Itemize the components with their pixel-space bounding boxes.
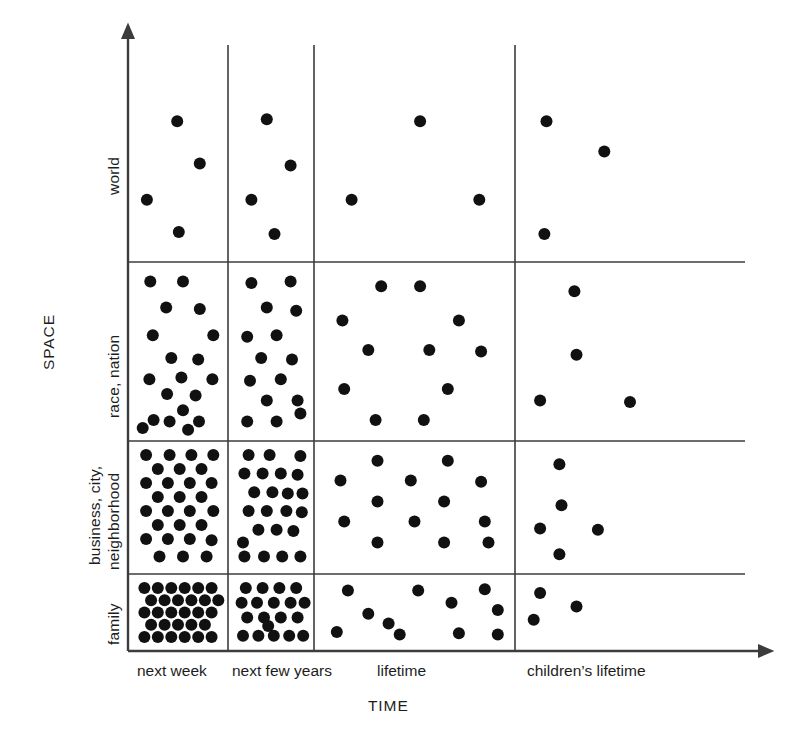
data-point bbox=[598, 146, 610, 158]
data-point bbox=[185, 449, 197, 461]
data-point bbox=[261, 113, 273, 125]
data-point bbox=[290, 305, 302, 317]
data-point bbox=[258, 551, 270, 563]
data-point bbox=[252, 630, 264, 642]
data-point bbox=[479, 583, 491, 595]
data-point bbox=[199, 594, 211, 606]
x-tick-label-lifetime: lifetime bbox=[377, 662, 426, 680]
data-point bbox=[383, 618, 395, 630]
data-point bbox=[438, 496, 450, 508]
chart-figure: SPACE world race, nation business, city,… bbox=[0, 0, 788, 739]
data-point bbox=[492, 604, 504, 616]
data-point bbox=[442, 455, 454, 467]
data-point bbox=[185, 594, 197, 606]
data-point bbox=[297, 630, 309, 642]
data-point bbox=[418, 414, 430, 426]
data-point bbox=[199, 619, 211, 631]
data-point bbox=[237, 537, 249, 549]
data-point bbox=[592, 524, 604, 536]
data-point bbox=[338, 516, 350, 528]
data-point bbox=[262, 620, 274, 632]
data-point bbox=[245, 194, 257, 206]
data-point bbox=[196, 463, 208, 475]
data-point bbox=[207, 449, 219, 461]
data-point bbox=[138, 631, 150, 643]
data-point bbox=[174, 519, 186, 531]
data-point bbox=[282, 488, 294, 500]
data-point bbox=[140, 477, 152, 489]
data-point bbox=[336, 315, 348, 327]
data-point bbox=[185, 619, 197, 631]
data-point bbox=[244, 375, 256, 387]
data-point bbox=[294, 450, 306, 462]
data-point bbox=[174, 491, 186, 503]
data-point bbox=[184, 505, 196, 517]
data-point bbox=[372, 496, 384, 508]
data-point bbox=[152, 582, 164, 594]
data-point bbox=[266, 486, 278, 498]
data-point bbox=[275, 611, 287, 623]
data-point bbox=[194, 303, 206, 315]
data-point bbox=[261, 505, 273, 517]
data-point bbox=[177, 551, 189, 563]
data-point bbox=[182, 424, 194, 436]
data-point bbox=[280, 505, 292, 517]
data-point bbox=[453, 627, 465, 639]
data-point bbox=[276, 551, 288, 563]
data-point bbox=[255, 352, 267, 364]
data-point bbox=[192, 631, 204, 643]
data-point bbox=[528, 614, 540, 626]
data-point bbox=[162, 505, 174, 517]
data-point bbox=[152, 519, 164, 531]
data-point bbox=[144, 275, 156, 287]
data-point bbox=[556, 499, 568, 511]
data-point bbox=[172, 619, 184, 631]
data-point bbox=[479, 516, 491, 528]
data-point bbox=[240, 582, 252, 594]
data-point bbox=[165, 582, 177, 594]
data-point bbox=[206, 373, 218, 385]
data-point bbox=[171, 115, 183, 127]
data-point bbox=[362, 608, 374, 620]
data-point bbox=[143, 373, 155, 385]
data-point bbox=[241, 331, 253, 343]
data-point bbox=[141, 194, 153, 206]
data-point bbox=[292, 611, 304, 623]
data-point bbox=[346, 194, 358, 206]
data-point bbox=[196, 491, 208, 503]
data-point bbox=[283, 630, 295, 642]
data-point bbox=[285, 597, 297, 609]
data-point bbox=[264, 449, 276, 461]
data-point bbox=[174, 463, 186, 475]
data-point bbox=[362, 344, 374, 356]
data-point bbox=[414, 280, 426, 292]
data-point bbox=[409, 516, 421, 528]
data-point bbox=[152, 491, 164, 503]
data-point bbox=[414, 115, 426, 127]
data-point bbox=[207, 505, 219, 517]
data-point bbox=[193, 416, 205, 428]
data-point bbox=[138, 582, 150, 594]
data-point bbox=[285, 275, 297, 287]
data-point bbox=[140, 505, 152, 517]
data-point bbox=[294, 551, 306, 563]
data-point bbox=[162, 533, 174, 545]
data-point bbox=[273, 582, 285, 594]
data-point bbox=[571, 600, 583, 612]
data-point bbox=[164, 416, 176, 428]
data-point bbox=[154, 551, 166, 563]
data-point bbox=[206, 631, 218, 643]
data-point bbox=[165, 631, 177, 643]
data-point bbox=[184, 477, 196, 489]
data-point bbox=[206, 582, 218, 594]
y-tick-label-family: family bbox=[105, 603, 123, 645]
data-point bbox=[297, 488, 309, 500]
data-point bbox=[165, 352, 177, 364]
y-axis-title: SPACE bbox=[40, 314, 58, 370]
data-point bbox=[159, 619, 171, 631]
data-point bbox=[147, 329, 159, 341]
data-point bbox=[423, 344, 435, 356]
data-point bbox=[257, 582, 269, 594]
data-point bbox=[190, 390, 202, 402]
data-point bbox=[192, 354, 204, 366]
